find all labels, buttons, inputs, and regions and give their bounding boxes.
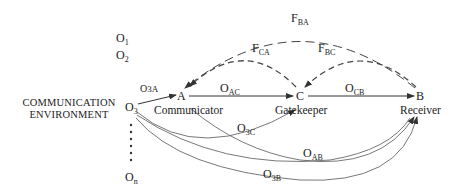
env-line-1: COMMUNICATION <box>18 97 120 109</box>
node-a: A <box>177 90 186 102</box>
object-o3: O3 <box>125 101 138 116</box>
object-on: On <box>125 171 138 186</box>
label-fbc: FBC <box>318 42 335 57</box>
role-communicator: Communicator <box>154 105 223 117</box>
label-fba: FBA <box>291 12 309 27</box>
communication-environment-label: COMMUNICATION ENVIRONMENT <box>18 97 120 121</box>
label-o3b: O3B <box>263 168 281 183</box>
node-b: B <box>416 90 424 102</box>
label-o3c: O3C <box>237 122 255 137</box>
env-line-2: ENVIRONMENT <box>18 109 120 121</box>
node-c: C <box>296 90 304 102</box>
role-receiver: Receiver <box>400 105 441 117</box>
object-o1: O1 <box>116 32 129 47</box>
label-ocb: OCB <box>345 82 364 97</box>
edge-o3-a <box>138 95 176 104</box>
role-gatekeeper: Gatekeeper <box>275 105 327 117</box>
label-oac: OAC <box>220 82 240 97</box>
label-o3a: O3A <box>140 84 158 94</box>
object-o2: O2 <box>116 49 129 64</box>
edge-o3-b-1 <box>137 115 410 162</box>
edge-fca <box>190 61 296 87</box>
label-fca: FCA <box>252 42 270 57</box>
ellipsis-dots <box>130 124 132 161</box>
label-oab: OAB <box>303 147 323 162</box>
